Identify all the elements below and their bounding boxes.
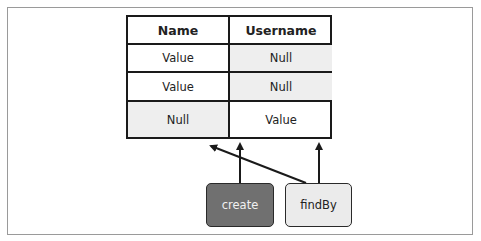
findby-to-name-arrow bbox=[211, 146, 306, 183]
findby-operation-box: findBy bbox=[285, 183, 352, 227]
create-operation-box: create bbox=[206, 183, 274, 227]
